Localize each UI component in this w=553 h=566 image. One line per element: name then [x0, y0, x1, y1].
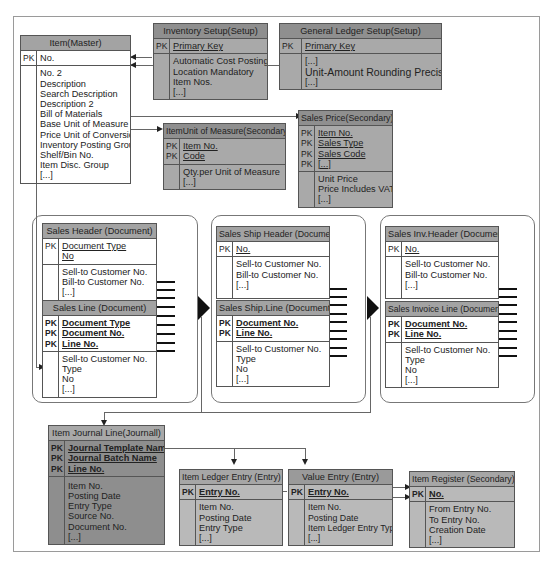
table-sales-line[interactable]: Sales Line (Document) PKPKPKDocument Typ…	[42, 300, 157, 398]
table-title: Item Register (Secondary)	[410, 472, 514, 487]
table-title: Item Journal Line(Journall)	[49, 426, 164, 441]
table-title: Sales Ship.Line (Document)	[217, 301, 329, 316]
table-item-ledger-entry[interactable]: Item Ledger Entry (Entry) PKEntry No. It…	[179, 469, 283, 546]
table-sales-ship-header[interactable]: Sales Ship Header (Document) PKNo. Sell-…	[216, 226, 330, 299]
table-title: Sales Line (Document)	[43, 301, 156, 316]
arrow-down-icon	[302, 459, 308, 465]
table-title: Sales Invoice Line (Document)	[386, 302, 498, 317]
table-sales-inv-header[interactable]: Sales Inv.Header (Document) PKNo. Sell-t…	[385, 226, 499, 299]
flow-arrow-icon	[198, 296, 210, 320]
table-sales-price[interactable]: Sales Price(Secondary) PKPKPKPKItem No.S…	[298, 110, 393, 208]
arrow-down-icon	[231, 459, 237, 465]
table-title: Item Ledger Entry (Entry)	[180, 470, 282, 485]
table-inventory-setup[interactable]: Inventory Setup(Setup) PKPrimary Key Aut…	[153, 23, 268, 100]
table-title: Sales Header (Document)	[43, 224, 156, 239]
table-sales-invoice-line[interactable]: Sales Invoice Line (Document) PKPKDocume…	[385, 301, 499, 388]
table-item-register[interactable]: Item Register (Secondary) PKNo. From Ent…	[409, 471, 515, 548]
table-sales-ship-line[interactable]: Sales Ship.Line (Document) PKPKDocument …	[216, 300, 330, 387]
table-title: Inventory Setup(Setup)	[154, 24, 267, 39]
table-title: General Ledger Setup(Setup)	[280, 24, 441, 39]
table-general-ledger-setup[interactable]: General Ledger Setup(Setup) PKPrimary Ke…	[279, 23, 442, 90]
table-title: Item(Master)	[21, 36, 130, 51]
table-title: Value Entry (Entry)	[289, 470, 392, 485]
table-item[interactable]: Item(Master) PKNo. No. 2DescriptionSearc…	[20, 35, 131, 184]
table-title: Sales Ship Header (Document)	[217, 227, 329, 242]
table-title: Sales Inv.Header (Document)	[386, 227, 498, 242]
table-item-journal-line[interactable]: Item Journal Line(Journall) PKPKPKJourna…	[48, 425, 165, 545]
table-sales-header[interactable]: Sales Header (Document) PKDocument TypeN…	[42, 223, 157, 304]
table-item-unit-of-measure[interactable]: ItemUnit of Measure(Secondary) PKPKItem …	[163, 123, 286, 190]
flow-arrow-icon	[367, 296, 379, 320]
table-title: ItemUnit of Measure(Secondary)	[164, 124, 285, 139]
table-title: Sales Price(Secondary)	[299, 111, 392, 126]
table-value-entry[interactable]: Value Entry (Entry) PKEntry No. Item No.…	[288, 469, 393, 546]
